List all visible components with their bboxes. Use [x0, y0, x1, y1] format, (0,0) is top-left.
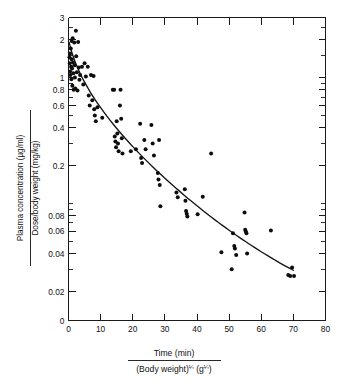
pharmacokinetic-scatter-chart: 0.020.040.060.080.20.40.60.81230 0102030… — [0, 0, 346, 382]
data-point — [94, 119, 98, 123]
data-point — [86, 65, 90, 69]
x-tick-label: 70 — [289, 324, 299, 334]
data-point — [209, 151, 213, 155]
data-point — [88, 104, 92, 108]
x-tick-label: 10 — [96, 324, 106, 334]
y-axis-title: Plasma concentration (µg/ml) Dose/body w… — [16, 110, 40, 266]
fitted-decay-curve — [69, 42, 293, 270]
data-point — [144, 147, 148, 151]
data-point — [80, 65, 84, 69]
data-point — [72, 40, 76, 44]
y-axis-ticks — [69, 18, 326, 292]
data-point — [183, 187, 187, 191]
y-tick-label: 0.08 — [48, 211, 65, 221]
y-tick-label: 0.06 — [48, 226, 65, 236]
data-point — [156, 178, 160, 182]
data-point — [243, 210, 247, 214]
data-point — [134, 147, 138, 151]
data-points-group — [67, 29, 296, 278]
data-point — [244, 231, 248, 235]
data-point — [245, 252, 249, 256]
y-tick-label: 0.02 — [48, 287, 65, 297]
data-point — [120, 151, 124, 155]
data-point — [93, 113, 97, 117]
data-point — [76, 88, 80, 92]
data-point — [219, 250, 223, 254]
data-point — [115, 119, 119, 123]
data-point — [142, 138, 146, 142]
data-point — [157, 138, 161, 142]
data-point — [158, 183, 162, 187]
data-point — [152, 154, 156, 158]
data-point — [118, 104, 122, 108]
data-point — [81, 83, 85, 87]
data-point — [196, 212, 200, 216]
data-point — [68, 52, 72, 56]
data-point — [119, 88, 123, 92]
x-tick-label: 0 — [66, 324, 71, 334]
data-point — [116, 141, 120, 145]
data-point — [115, 131, 119, 135]
data-point — [100, 116, 104, 120]
y-tick-label: 0.2 — [53, 161, 65, 171]
data-point — [77, 78, 81, 82]
x-tick-label: 20 — [128, 324, 138, 334]
data-point — [73, 76, 77, 80]
data-point — [149, 123, 153, 127]
data-point — [83, 61, 87, 65]
data-point — [120, 136, 124, 140]
x-tick-label: 50 — [224, 324, 234, 334]
figure-container: 0.020.040.060.080.20.40.60.81230 0102030… — [0, 0, 346, 382]
data-point — [176, 195, 180, 199]
data-point — [185, 214, 189, 218]
data-point — [201, 195, 205, 199]
data-point — [174, 191, 178, 195]
data-point — [70, 67, 74, 71]
y-tick-label: 0.6 — [53, 101, 65, 111]
data-point — [231, 231, 235, 235]
data-point — [95, 105, 99, 109]
data-point — [117, 149, 121, 153]
data-point — [139, 156, 143, 160]
data-point — [138, 122, 142, 126]
x-axis-title: Time (min) (Body weight)¼ (g¼) — [128, 348, 221, 374]
data-point — [90, 98, 94, 102]
y-tick-label: 2 — [60, 35, 65, 45]
fitted-curve-group — [69, 42, 293, 270]
data-point — [69, 77, 73, 81]
data-point — [158, 204, 162, 208]
y-tick-label: 0.8 — [53, 85, 65, 95]
data-point — [230, 267, 234, 271]
data-point — [292, 274, 296, 278]
data-point — [76, 40, 80, 44]
x-axis-tick-labels: 01020304050607080 — [66, 324, 330, 334]
x-tick-label: 40 — [192, 324, 202, 334]
x-tick-label: 80 — [321, 324, 331, 334]
y-tick-label: 3 — [60, 13, 65, 23]
data-point — [78, 73, 82, 77]
data-point — [87, 94, 91, 98]
data-point — [114, 145, 118, 149]
data-point — [119, 117, 123, 121]
x-axis-denominator-label: (Body weight)¼ (g¼) — [136, 364, 212, 374]
y-axis-tick-labels: 0.020.040.060.080.20.40.60.81230 — [48, 13, 65, 326]
data-point — [234, 253, 238, 257]
data-point — [269, 229, 273, 233]
data-point — [74, 54, 78, 58]
data-point — [113, 135, 117, 139]
y-axis-numerator-label: Plasma concentration (µg/ml) — [16, 134, 25, 241]
data-point — [73, 63, 77, 67]
data-point — [74, 29, 78, 33]
x-tick-label: 30 — [160, 324, 170, 334]
y-tick-label: 0.4 — [53, 123, 65, 133]
data-point — [156, 171, 160, 175]
y-zero-label: 0 — [60, 316, 65, 326]
data-point — [288, 274, 292, 278]
data-point — [233, 246, 237, 250]
x-axis-numerator-label: Time (min) — [154, 348, 195, 358]
data-point — [112, 88, 116, 92]
data-point — [75, 70, 79, 74]
y-tick-label: 1 — [60, 73, 65, 83]
data-point — [69, 47, 73, 51]
y-tick-label: 0.04 — [48, 249, 65, 259]
